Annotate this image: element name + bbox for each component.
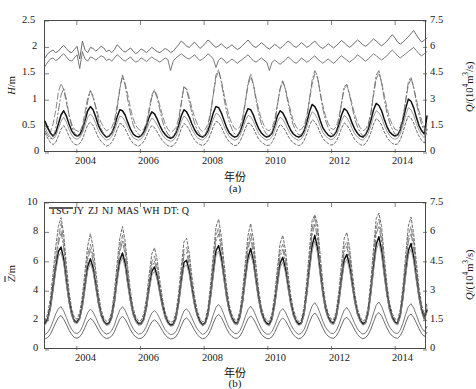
panel-b-ytick-2: 2 [33,313,38,324]
panel-b-xtick-2008: 2008 [202,352,223,363]
panel-b-curves [45,203,427,350]
panel-b-xtick-2004: 2004 [75,352,96,363]
panel-a-ytick-right-7_5: 7.5 [430,14,443,25]
panel-a-ylabel: H/m [6,66,17,106]
panel-a-ytick-right-6: 6 [430,40,435,51]
series-jy [45,47,427,70]
legend-item-dt-q[interactable]: DT: Q [162,205,191,216]
panel-b-ylabel: Z/m [6,252,17,296]
panel-a-ytick-0: 0 [34,145,39,156]
panel-a-ytick-2_5: 2.5 [22,14,35,25]
panel-b-ytick-6: 6 [33,255,38,266]
panel-a-xtick-2010: 2010 [265,155,286,166]
panel-b-ytick-right-6: 6 [430,225,435,236]
legend-item-mas[interactable]: MAS [115,205,141,216]
panel-a-ytick-right-0: 0 [430,145,435,156]
panel-b-ytick-right-1_5: 1.5 [430,313,443,324]
panel-b-ytick-10: 10 [27,196,38,207]
panel-a-xtick-2006: 2006 [138,155,159,166]
legend-swatch-dashdot-icon [48,203,74,212]
legend-item-nj[interactable]: NJ [100,205,115,216]
legend-label: NJ [100,205,115,216]
panel-b-xtick-2012: 2012 [329,352,350,363]
panel-b-ytick-right-3: 3 [430,284,435,295]
panel-b: TSGJYZJNJMASWHDT: Q 10 8 6 4 2 0 7.5 6 4… [0,194,476,388]
panel-b-plot-area [44,202,426,349]
panel-a-ytick-1: 1 [32,93,37,104]
panel-b-ytick-right-0: 0 [430,342,435,353]
panel-b-xtick-2006: 2006 [138,352,159,363]
legend-item-zj[interactable]: ZJ [86,205,100,216]
panel-a-plot-area [44,20,426,152]
panel-a-xtick-2012: 2012 [329,155,350,166]
panel-a-ytick-1_5: 1.5 [22,66,35,77]
legend-label: WH [141,205,162,216]
series-tsg [45,31,427,60]
panel-b-xtick-2010: 2010 [265,352,286,363]
legend-label: ZJ [86,205,100,216]
legend: TSGJYZJNJMASWHDT: Q [48,203,422,217]
panel-a: 2.5 2 1.5 1 0.5 0 7.5 6 4.5 3 1.5 0 2004… [0,0,476,194]
panel-b-ytick-0: 0 [33,342,38,353]
panel-a-ytick-right-1_5: 1.5 [430,119,443,130]
panel-a-curves [45,21,427,153]
panel-b-label: (b) [212,377,258,389]
series-zj [45,216,427,324]
panel-b-ytick-right-7_5: 7.5 [430,196,443,207]
legend-item-wh[interactable]: WH [141,205,162,216]
panel-b-xtick-2014: 2014 [392,352,413,363]
panel-b-ylabel-right: Q/(104m3/s) [461,235,475,315]
panel-a-xtick-2004: 2004 [75,155,96,166]
series-nj [45,235,427,325]
panel-b-ytick-right-4_5: 4.5 [430,255,443,266]
panel-b-ytick-8: 8 [33,225,38,236]
legend-label: DT: Q [162,205,191,216]
panel-a-ytick-2: 2 [32,40,37,51]
panel-a-ytick-right-3: 3 [430,93,435,104]
legend-label: MAS [115,205,141,216]
panel-a-xtick-2008: 2008 [202,155,223,166]
panel-a-ytick-0_5: 0.5 [22,119,35,130]
panel-a-ytick-right-4_5: 4.5 [430,66,443,77]
panel-a-label: (a) [212,182,258,194]
panel-a-xtick-2014: 2014 [392,155,413,166]
panel-b-ytick-4: 4 [33,284,38,295]
series-dt-q [45,224,427,326]
panel-a-ylabel-right: Q/(104m3/s) [461,47,475,127]
